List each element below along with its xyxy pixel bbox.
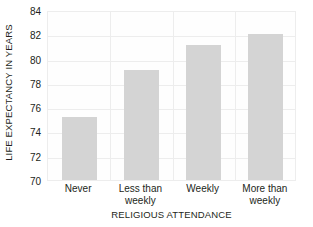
gridline-vertical xyxy=(110,12,111,180)
x-axis-tick-label: Weekly xyxy=(172,183,234,195)
y-axis-tick-label: 72 xyxy=(30,151,41,162)
bar xyxy=(186,45,221,180)
plot-area xyxy=(47,11,296,181)
bar xyxy=(248,34,283,180)
x-axis-tick-labels: NeverLess thanweeklyWeeklyMore thanweekl… xyxy=(47,183,296,209)
y-axis-tick-label: 70 xyxy=(30,176,41,187)
gridline-vertical xyxy=(235,12,236,180)
x-axis-title: RELIGIOUS ATTENDANCE xyxy=(47,209,296,220)
x-axis-tick-label-line: weekly xyxy=(234,195,296,207)
x-axis-tick-label: Less thanweekly xyxy=(109,183,171,206)
y-axis-tick-label: 74 xyxy=(30,127,41,138)
y-axis-tick-label: 76 xyxy=(30,103,41,114)
x-axis-tick-label: Never xyxy=(47,183,109,195)
x-axis-tick-label-line: Never xyxy=(47,183,109,195)
x-axis-tick-label-line: Less than xyxy=(109,183,171,195)
bar xyxy=(62,117,97,180)
x-axis-tick-label-line: weekly xyxy=(109,195,171,207)
y-axis-tick-labels: 7072747678808284 xyxy=(16,11,44,181)
y-axis-tick-label: 78 xyxy=(30,78,41,89)
x-axis-tick-label-line: Weekly xyxy=(172,183,234,195)
y-axis-title: LIFE EXPECTANCY IN YEARS xyxy=(0,0,16,185)
y-axis-title-label: LIFE EXPECTANCY IN YEARS xyxy=(3,24,14,161)
bar-chart: LIFE EXPECTANCY IN YEARS 707274767880828… xyxy=(0,0,313,227)
gridline-vertical xyxy=(173,12,174,180)
x-axis-tick-label: More thanweekly xyxy=(234,183,296,206)
y-axis-tick-label: 80 xyxy=(30,54,41,65)
bar xyxy=(124,70,159,181)
y-axis-tick-label: 84 xyxy=(30,6,41,17)
y-axis-tick-label: 82 xyxy=(30,30,41,41)
x-axis-tick-label-line: More than xyxy=(234,183,296,195)
